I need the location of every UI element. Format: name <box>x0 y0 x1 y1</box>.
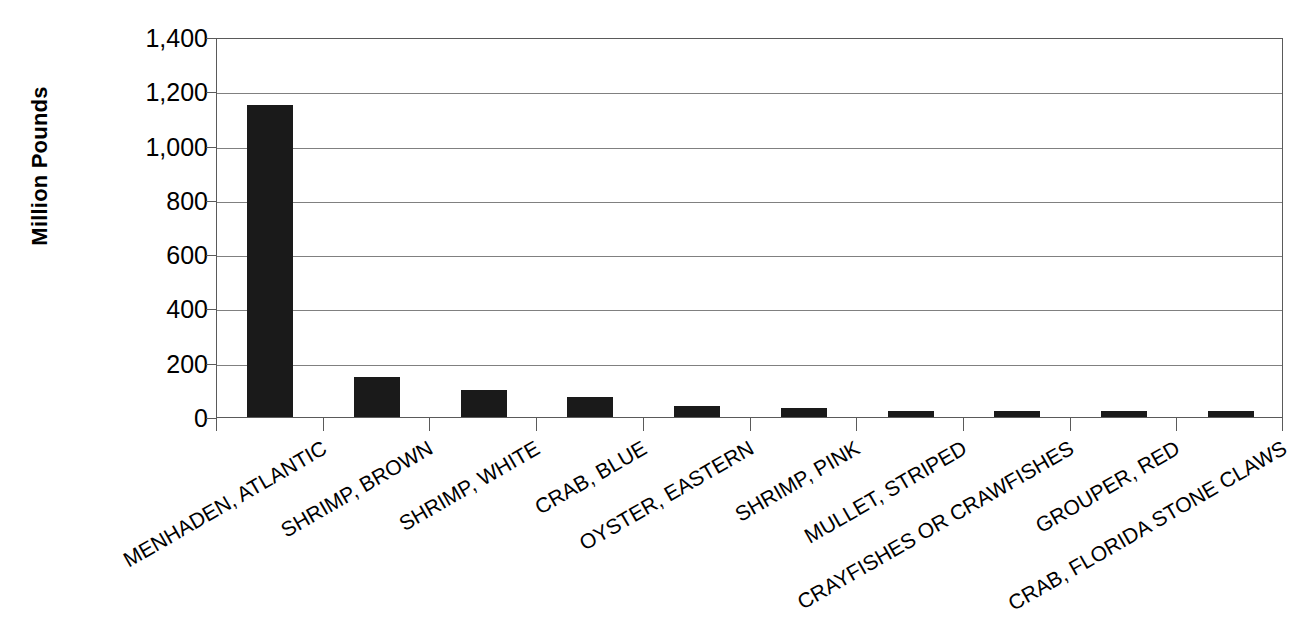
y-axis-tick-label: 600 <box>60 241 208 269</box>
y-axis-title: Million Pounds <box>18 16 62 316</box>
x-axis-tick-mark <box>536 418 537 431</box>
x-axis-tick-mark <box>963 418 964 431</box>
x-axis-tick-mark <box>750 418 751 431</box>
x-axis-tick-mark <box>856 418 857 431</box>
y-axis-tick-label: 400 <box>60 295 208 323</box>
bar-slot <box>324 39 431 417</box>
bar-slot <box>217 39 324 417</box>
x-axis-tick-mark <box>1282 418 1283 431</box>
bar-slot <box>964 39 1071 417</box>
y-axis-tick-label: 800 <box>60 187 208 215</box>
y-axis-tick-label-group: 1,4001,2001,0008006004002000 <box>60 24 208 432</box>
x-axis-tick-mark <box>216 418 217 431</box>
bar-slot <box>751 39 858 417</box>
y-axis-tick-label: 200 <box>60 350 208 378</box>
x-axis-tick-mark <box>1176 418 1177 431</box>
bar-slot <box>644 39 751 417</box>
x-axis-tick-mark <box>1070 418 1071 431</box>
x-axis-tick-mark <box>643 418 644 431</box>
x-axis-label-text: MENHADEN, ATLANTIC <box>119 436 331 572</box>
x-axis-label-text: OYSTER, EASTERN <box>575 436 758 555</box>
bar-slot <box>537 39 644 417</box>
bar[interactable] <box>247 105 293 417</box>
y-axis-tick-label: 1,000 <box>60 133 208 161</box>
x-axis-tick-mark <box>429 418 430 431</box>
bar-chart: Million Pounds 1,4001,2001,0008006004002… <box>0 0 1312 620</box>
x-axis-tick-mark <box>323 418 324 431</box>
y-axis-tick-label: 1,400 <box>60 24 208 52</box>
y-axis-tick-label: 1,200 <box>60 78 208 106</box>
y-axis-tick-label: 0 <box>60 404 208 432</box>
